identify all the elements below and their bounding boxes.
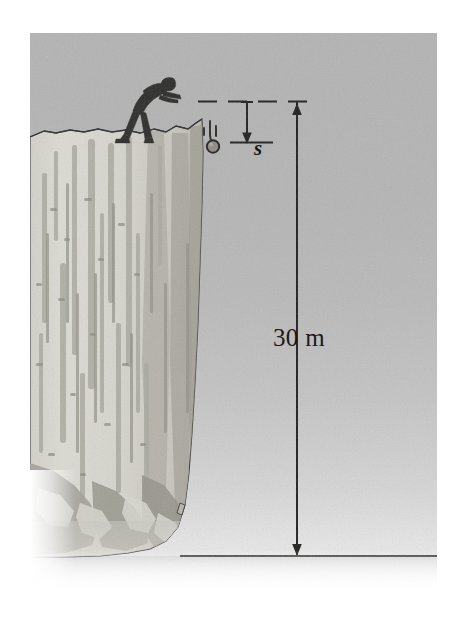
scene-panel: 30 m s (30, 33, 437, 590)
paper-grain (30, 33, 437, 590)
displacement-label: s (254, 136, 262, 161)
physics-figure: 30 m s (0, 0, 464, 617)
scene-drawing (30, 33, 437, 590)
height-label: 30 m (273, 324, 325, 352)
